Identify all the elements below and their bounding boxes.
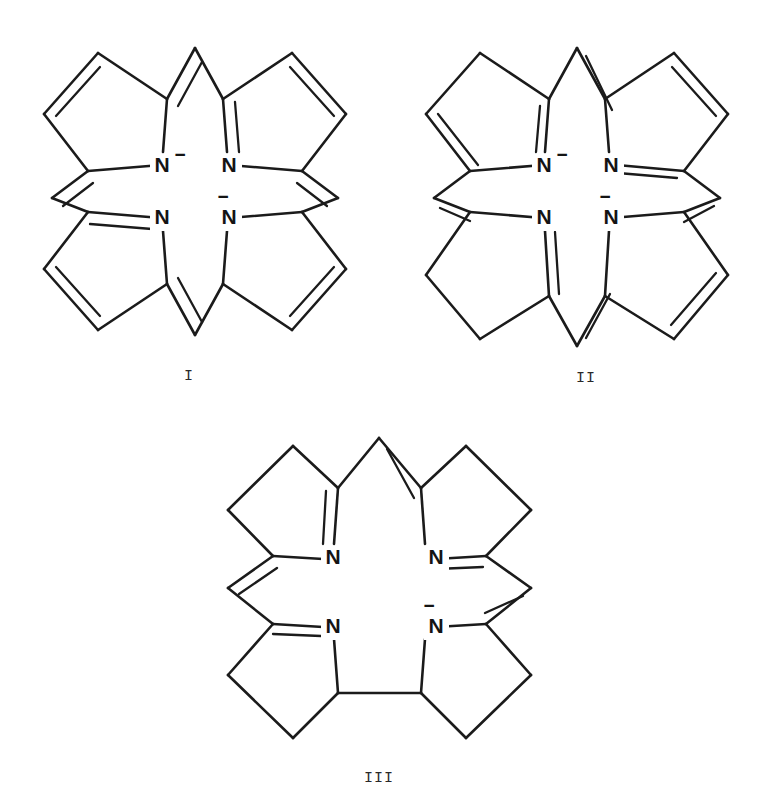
bond-beta-alpha-ur	[302, 114, 346, 171]
bond-alpha-beta-ul-a	[480, 53, 549, 99]
bond-meso-left-upper-inner	[239, 568, 277, 594]
atom-charge-lower-right: −	[217, 186, 228, 207]
bond-meso-top-right	[195, 48, 223, 99]
atom-charge-upper-left: −	[174, 144, 185, 165]
atom-label-upper-left: N	[154, 153, 169, 176]
bond-meso-bottom-right	[195, 284, 223, 335]
bond-beta-alpha-ll	[228, 624, 273, 675]
bond-alpha-n-ul-inner	[323, 491, 326, 544]
bond-meso-right-upper	[486, 556, 531, 588]
bond-meso-bottom-left	[549, 296, 577, 346]
bond-alpha-n-ur-b	[421, 488, 425, 544]
bond-beta-alpha-ll	[44, 212, 88, 269]
bond-alpha-n-ul	[273, 556, 323, 559]
bond-n-alpha-ll	[545, 231, 549, 296]
bond-alpha-n-ll	[273, 624, 323, 627]
figure-page: N − N N N − I	[0, 0, 775, 812]
bond-alpha-n-ul-b	[545, 99, 549, 152]
bond-meso-top-right-inner	[586, 56, 612, 110]
bond-beta-alpha-lr	[486, 624, 531, 675]
bond-alpha-beta-lr	[223, 284, 292, 330]
bond-beta-alpha-ul	[44, 114, 88, 171]
meso-bridges	[228, 438, 531, 693]
bond-meso-left-lower	[228, 588, 273, 624]
bond-meso-bottom-right-inner	[586, 294, 610, 338]
structure-II: N − N N N −	[412, 26, 742, 366]
caption-structure-II: II	[576, 370, 596, 387]
bond-alpha-n-ul-inner	[536, 106, 540, 152]
bond-alpha-n-ur-inner	[618, 173, 677, 178]
bond-meso-right-upper	[302, 171, 338, 198]
atom-label-upper-right: N	[603, 153, 618, 176]
bond-beta-alpha-lr	[302, 212, 346, 269]
bond-beta-beta-ll	[228, 675, 293, 738]
bond-meso-top-right	[379, 438, 421, 488]
bond-n-alpha-lr	[421, 639, 425, 693]
atom-label-upper-left: N	[325, 545, 340, 568]
bond-beta-beta-ul	[426, 53, 480, 114]
atom-charge-upper-left: −	[556, 144, 567, 165]
bond-alpha-n-ur-inner	[235, 102, 239, 152]
bond-meso-right-lower	[486, 588, 531, 624]
bond-beta-alpha-ul	[426, 114, 470, 171]
bond-n-alpha-lr	[223, 231, 227, 284]
ring-lower-left	[44, 212, 167, 330]
caption-structure-I: I	[184, 368, 194, 385]
structure-III: N N N N −	[193, 428, 573, 758]
structure-I: N − N N N −	[30, 26, 360, 356]
bond-beta-alpha-lr	[684, 212, 728, 275]
bond-alpha-beta-ll	[293, 693, 338, 738]
caption-structure-III: III	[364, 770, 394, 787]
atom-label-lower-right: N	[603, 205, 618, 228]
atom-label-lower-right: N	[428, 614, 443, 637]
bond-meso-top-right	[577, 48, 605, 99]
meso-bridges	[434, 48, 720, 346]
bond-meso-top-left	[167, 48, 195, 99]
bond-alpha-n-ul-b	[163, 99, 167, 152]
bond-n-alpha-ll-inner	[555, 232, 559, 294]
atom-label-lower-left: N	[536, 205, 551, 228]
structure-III-drawing: N N N N −	[193, 428, 573, 758]
bond-alpha-beta-lr	[605, 296, 674, 339]
bond-meso-right-lower-inner	[684, 206, 714, 222]
bond-meso-left-upper	[52, 171, 88, 198]
atom-label-upper-left: N	[536, 153, 551, 176]
bond-beta-alpha-ur	[684, 114, 728, 171]
bond-alpha-beta-ul	[293, 446, 338, 488]
bond-alpha-beta-lr	[421, 693, 466, 738]
atom-label-lower-left: N	[154, 205, 169, 228]
bond-n-alpha-ll	[163, 231, 167, 284]
bond-alpha-beta-ur-a	[605, 53, 674, 99]
bond-alpha-beta-ll	[480, 296, 549, 339]
bond-beta-alpha-ur	[486, 510, 531, 556]
bond-beta-beta-ll	[426, 275, 480, 339]
atom-label-upper-right: N	[428, 545, 443, 568]
bond-n-alpha-lr	[605, 231, 609, 296]
ring-upper-left	[228, 446, 338, 559]
ring-upper-left	[44, 53, 167, 171]
bond-alpha-beta-ur-a	[223, 53, 292, 99]
ring-upper-right	[223, 53, 346, 171]
bond-meso-right-lower	[684, 198, 720, 212]
bond-beta-beta-lr	[292, 269, 346, 330]
bond-alpha-beta-ll	[98, 284, 167, 330]
ring-lower-left	[228, 624, 338, 738]
bond-meso-top-left	[338, 438, 379, 488]
bond-beta-alpha-ll	[426, 212, 470, 275]
bond-meso-left-upper	[228, 556, 273, 588]
bond-beta-beta-lr	[674, 275, 728, 339]
bond-beta-beta-ur	[674, 53, 728, 114]
bond-beta-beta-ul	[44, 53, 98, 114]
bond-meso-left-lower	[434, 198, 470, 212]
atom-label-lower-right: N	[221, 205, 236, 228]
atom-charge-lower-right: −	[423, 595, 434, 616]
bond-alpha-n-ur-b	[223, 99, 227, 152]
atom-label-upper-right: N	[221, 153, 236, 176]
bond-beta-beta-ul	[228, 446, 293, 510]
bond-alpha-n-ur	[617, 165, 684, 171]
bond-beta-beta-ur	[466, 446, 531, 510]
meso-bridges	[52, 48, 338, 335]
ring-upper-left	[426, 53, 549, 171]
bond-n-alpha-ll	[334, 639, 338, 693]
bond-beta-alpha-ul	[228, 510, 273, 556]
